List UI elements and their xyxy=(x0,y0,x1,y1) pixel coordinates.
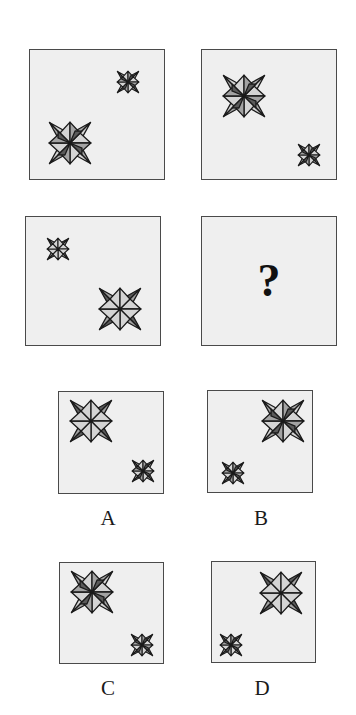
small-star-icon xyxy=(41,232,75,266)
large-star-icon xyxy=(61,561,123,623)
option-label-c[interactable]: C xyxy=(93,678,123,699)
small-star-icon xyxy=(125,628,159,662)
small-star-icon xyxy=(292,138,326,172)
large-star-icon xyxy=(213,65,275,127)
large-star-icon xyxy=(252,390,314,452)
small-star-icon xyxy=(111,65,145,99)
small-star-icon xyxy=(216,456,250,490)
option-label-d[interactable]: D xyxy=(247,678,277,699)
large-star-icon xyxy=(250,562,312,624)
small-star-icon xyxy=(214,628,248,662)
large-star-icon xyxy=(39,112,101,174)
small-star-icon xyxy=(126,454,160,488)
question-mark: ? xyxy=(201,258,337,304)
large-star-icon xyxy=(60,390,122,452)
large-star-icon xyxy=(89,278,151,340)
option-label-a[interactable]: A xyxy=(93,508,123,529)
option-label-b[interactable]: B xyxy=(246,508,276,529)
